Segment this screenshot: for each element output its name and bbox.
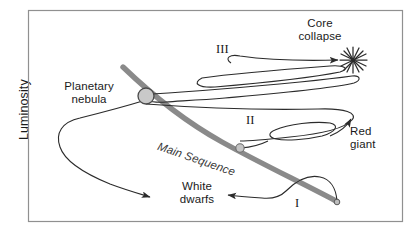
label-stage-three: III (216, 42, 229, 56)
track-i-planetary-loop (58, 100, 150, 197)
track-iii-segment-d (228, 55, 338, 63)
track-iii-segment-c (197, 66, 345, 87)
label-stage-two: II (246, 113, 255, 127)
track-ii-entry (241, 141, 268, 148)
main-sequence-star-marker (236, 144, 244, 152)
label-white-dwarfs: White dwarfs (162, 180, 232, 206)
label-core-collapse: Core collapse (288, 17, 352, 43)
supernova-starburst-icon (340, 47, 367, 73)
low-mass-star-marker (334, 199, 340, 205)
label-stage-one: I (295, 196, 299, 210)
hr-diagram-figure: Luminosity (0, 0, 410, 231)
track-ii-segment-b (240, 120, 352, 141)
label-planetary-nebula: Planetary nebula (50, 80, 128, 106)
track-iii-segment-a (152, 76, 359, 102)
label-red-giant: Red giant (350, 125, 394, 151)
planetary-nebula-star-marker (138, 88, 154, 104)
track-i-lowmass-loop (228, 176, 337, 201)
